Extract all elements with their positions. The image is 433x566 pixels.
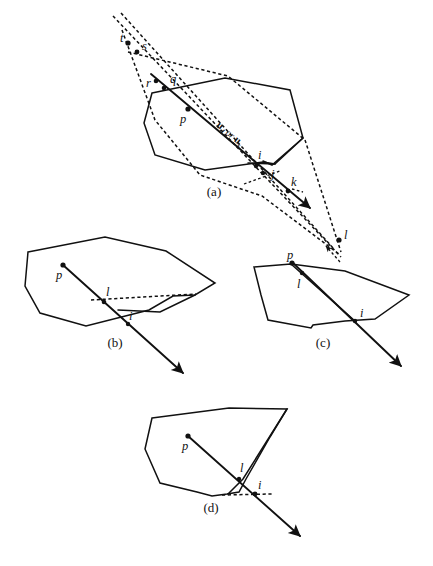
panel-c-polygon — [254, 264, 409, 328]
panel-a-label-l: l — [344, 228, 348, 242]
panel-a-point-t — [125, 40, 130, 45]
panel-b-label-p: p — [55, 268, 62, 282]
panel-b: p l i (b) — [25, 237, 215, 373]
panel-c-point-l — [300, 271, 304, 275]
svg-text:ud or us: ud or us — [213, 119, 246, 150]
panel-d-dashed-horizontal-at-i — [222, 494, 272, 495]
panel-a-label-q: q — [170, 72, 176, 86]
panel-d-point-l — [237, 477, 241, 481]
panel-a-point-k — [286, 189, 291, 194]
panel-c-label-l: l — [297, 277, 301, 291]
panel-c-point-i — [353, 319, 357, 323]
panel-d-label-p: p — [181, 439, 188, 453]
panel-a-dashed-tick-k — [292, 189, 303, 192]
panel-a-main-ray — [151, 74, 310, 208]
panel-d: p l i (d) — [145, 408, 300, 536]
panel-a-notch-edges — [263, 138, 303, 165]
panel-b-caption: (b) — [107, 335, 122, 350]
panel-c-label-i: i — [360, 306, 364, 320]
geometry-figure: t s r q p i j k l ud or us (a) — [0, 0, 433, 566]
panel-a-point-i — [254, 164, 258, 168]
panel-d-point-i — [253, 492, 258, 497]
panel-a-caption: (a) — [207, 184, 221, 199]
panel-a-ray-vector-label: ud or us — [213, 119, 246, 150]
panel-b-point-l — [102, 300, 107, 305]
panel-c: p l i (c) — [254, 246, 409, 366]
panel-c-ray — [293, 263, 401, 366]
panel-a-label-k: k — [291, 175, 297, 189]
panel-a-label-p: p — [179, 112, 186, 126]
panel-a-label-i: i — [258, 148, 262, 162]
panel-a-point-j — [261, 171, 265, 175]
panel-a-point-s — [135, 50, 140, 55]
panel-d-point-p — [185, 433, 190, 438]
panel-b-label-i: i — [129, 309, 133, 323]
panel-a-point-r — [154, 79, 159, 84]
panel-a-point-p — [185, 106, 190, 111]
panel-c-label-p: p — [286, 248, 293, 262]
panel-a-edge-near-i — [248, 163, 275, 164]
panel-d-polygon — [145, 408, 287, 496]
panel-a-label-r: r — [146, 76, 151, 90]
panel-a-point-q — [162, 86, 167, 91]
panel-b-label-l: l — [106, 285, 110, 299]
figure-container: t s r q p i j k l ud or us (a) — [0, 0, 433, 566]
panel-c-caption: (c) — [316, 335, 330, 350]
panel-a-label-t: t — [120, 31, 124, 45]
panel-b-point-p — [60, 262, 65, 267]
panel-b-polygon — [25, 237, 215, 326]
panel-b-ray — [63, 265, 183, 373]
panel-d-ray — [188, 436, 300, 536]
panel-d-label-l: l — [240, 461, 244, 475]
panel-a-label-s: s — [142, 39, 147, 53]
panel-d-label-i: i — [258, 478, 262, 492]
panel-a: t s r q p i j k l ud or us (a) — [113, 13, 348, 257]
panel-d-caption: (d) — [203, 500, 218, 515]
panel-a-point-l — [336, 237, 341, 242]
